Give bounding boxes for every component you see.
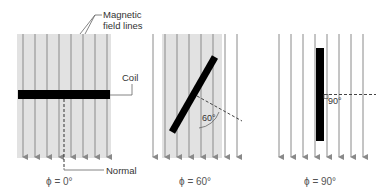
field-lines-leader	[80, 15, 102, 34]
angle-label-60: 60°	[202, 113, 216, 124]
normal-leader	[64, 168, 104, 170]
normal-label: Normal	[106, 165, 137, 176]
caption-phi-0: ϕ = 0°	[46, 176, 73, 187]
field-lines-label-line2: field lines	[103, 20, 143, 31]
panel-phi-0	[17, 15, 132, 170]
caption-phi-90: ϕ = 90°	[304, 176, 336, 187]
coil-leader	[110, 84, 132, 95]
field-lines-label-line1: Magnetic	[103, 9, 143, 20]
coil	[18, 90, 110, 99]
angle-label-90: 90°	[328, 96, 342, 107]
caption-phi-60: ϕ = 60°	[179, 176, 211, 187]
field-lines-label: Magnetic field lines	[103, 9, 143, 31]
coil-label: Coil	[122, 72, 138, 83]
coil	[316, 48, 324, 141]
panel-phi-60	[153, 34, 242, 158]
